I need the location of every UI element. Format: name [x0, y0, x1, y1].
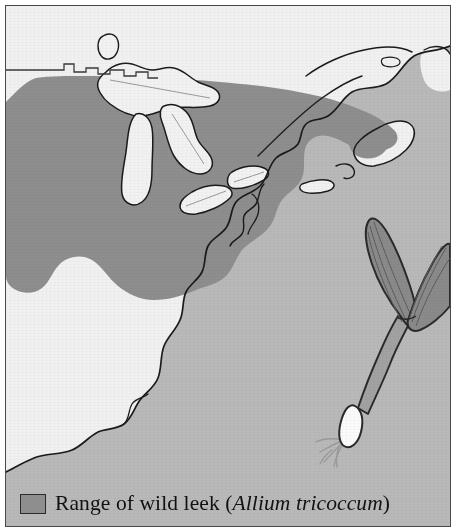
range-map-figure: Range of wild leek (Allium tricoccum)	[0, 0, 456, 532]
range-swatch	[20, 494, 46, 514]
plant-bulb	[339, 405, 362, 447]
legend-prefix: Range of wild leek (	[55, 491, 233, 515]
legend-species-name: Allium tricoccum	[233, 491, 383, 515]
plant-group	[316, 218, 450, 467]
figure-frame: Range of wild leek (Allium tricoccum)	[5, 5, 451, 527]
plant-stem	[358, 316, 410, 414]
map-legend: Range of wild leek (Allium tricoccum)	[20, 491, 390, 516]
wild-leek-illustration	[6, 6, 450, 525]
legend-label: Range of wild leek (Allium tricoccum)	[55, 491, 390, 516]
map-stage	[6, 6, 450, 526]
legend-suffix: )	[383, 491, 390, 515]
